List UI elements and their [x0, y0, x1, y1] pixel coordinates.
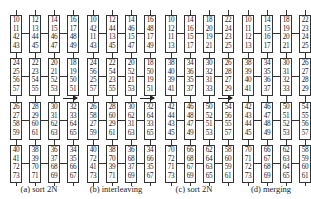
processor-box: 42434445: [242, 102, 254, 140]
value-cell: 64: [283, 163, 290, 172]
value-cell: 58: [302, 146, 309, 155]
value-cell: 72: [90, 155, 97, 164]
value-cell: 69: [187, 172, 194, 181]
value-cell: 16: [147, 16, 154, 25]
value-cell: 50: [147, 68, 154, 77]
processor-box: 30316263: [48, 102, 60, 140]
value-cell: 31: [206, 76, 213, 85]
value-cell: 63: [128, 129, 135, 138]
value-cell: 47: [187, 120, 194, 129]
row-wire: [93, 163, 150, 164]
value-cell: 46: [264, 103, 271, 112]
value-cell: 66: [147, 155, 154, 164]
value-cell: 16: [187, 25, 194, 34]
value-cell: 51: [70, 85, 77, 94]
value-cell: 26: [225, 59, 232, 68]
arrow-icon: [140, 98, 154, 99]
processor-box: 70717273: [242, 145, 254, 183]
processor-box: 40724173: [87, 145, 99, 183]
value-cell: 33: [70, 112, 77, 121]
value-cell: 10: [168, 16, 175, 25]
value-cell: 41: [90, 163, 97, 172]
processor-box: 26582759: [87, 102, 99, 140]
value-cell: 72: [168, 155, 175, 164]
value-cell: 25: [225, 42, 232, 51]
value-cell: 50: [70, 76, 77, 85]
value-cell: 20: [128, 59, 135, 68]
value-cell: 70: [109, 155, 116, 164]
value-cell: 36: [128, 146, 135, 155]
value-cell: 11: [245, 25, 251, 34]
processor-box: 36683769: [125, 145, 137, 183]
processor-box: 58596061: [299, 145, 311, 183]
value-cell: 13: [168, 42, 175, 51]
value-cell: 60: [225, 155, 232, 164]
value-cell: 13: [32, 25, 39, 34]
value-cell: 49: [70, 42, 77, 51]
value-cell: 25: [13, 68, 20, 77]
value-cell: 61: [302, 172, 309, 181]
processor-box: 46474849: [261, 102, 273, 140]
value-cell: 45: [109, 42, 116, 51]
value-cell: 15: [128, 33, 135, 42]
value-cell: 60: [302, 163, 309, 172]
value-cell: 58: [225, 146, 232, 155]
panel-b: 1042114312441345144615471648174924562557…: [77, 0, 155, 199]
processor-box: 14161517: [184, 15, 196, 53]
value-cell: 42: [90, 25, 97, 34]
value-cell: 23: [302, 25, 309, 34]
value-cell: 10: [90, 16, 97, 25]
value-cell: 73: [168, 172, 175, 181]
value-cell: 60: [109, 112, 116, 121]
value-cell: 54: [302, 103, 309, 112]
value-cell: 27: [90, 120, 97, 129]
processor-box: 30313233: [280, 58, 292, 96]
value-cell: 55: [32, 85, 39, 94]
processor-box: 10121113: [165, 15, 177, 53]
value-cell: 33: [283, 85, 290, 94]
row-wire: [16, 33, 73, 34]
value-cell: 18: [70, 59, 77, 68]
processor-box: 70727173: [165, 145, 177, 183]
value-cell: 57: [90, 85, 97, 94]
value-cell: 11: [168, 33, 174, 42]
processor-box: 14461547: [125, 15, 137, 53]
value-cell: 34: [70, 146, 77, 155]
processor-box: 50525153: [203, 102, 215, 140]
value-cell: 26: [90, 103, 97, 112]
value-cell: 68: [51, 163, 58, 172]
processor-box: 22232425: [299, 15, 311, 53]
panel-caption: (c) sort 2N: [155, 184, 233, 194]
value-cell: 55: [225, 120, 232, 129]
value-cell: 65: [206, 172, 213, 181]
value-cell: 59: [302, 155, 309, 164]
value-cell: 34: [147, 146, 154, 155]
value-cell: 11: [13, 25, 19, 34]
processor-box: 38397071: [29, 145, 41, 183]
value-cell: 18: [147, 59, 154, 68]
value-cell: 14: [187, 16, 194, 25]
processor-box: 10111213: [242, 15, 254, 53]
processor-box: 18201921: [203, 15, 215, 53]
value-cell: 56: [90, 68, 97, 77]
value-cell: 61: [32, 129, 39, 138]
processor-box: 62646365: [203, 145, 215, 183]
processor-box: 36376869: [48, 145, 60, 183]
value-cell: 46: [128, 25, 135, 34]
value-cell: 56: [13, 76, 20, 85]
value-cell: 39: [168, 76, 175, 85]
value-cell: 44: [32, 33, 39, 42]
value-cell: 61: [109, 129, 116, 138]
value-cell: 64: [147, 112, 154, 121]
row-wire: [93, 76, 150, 77]
row-wire: [16, 163, 73, 164]
value-cell: 41: [245, 85, 252, 94]
value-cell: 72: [245, 163, 252, 172]
value-cell: 44: [109, 25, 116, 34]
value-cell: 66: [264, 146, 271, 155]
value-cell: 35: [70, 155, 77, 164]
value-cell: 42: [13, 33, 20, 42]
value-cell: 64: [70, 120, 77, 129]
value-cell: 37: [264, 85, 271, 94]
value-cell: 23: [225, 33, 232, 42]
